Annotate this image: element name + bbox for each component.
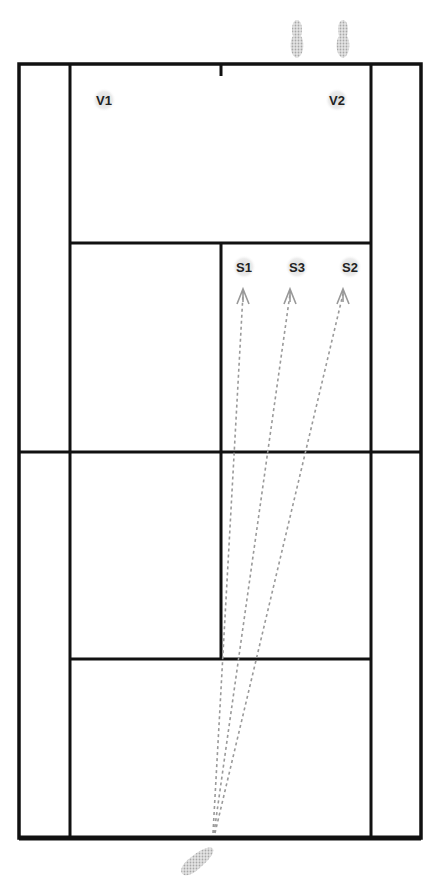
arrow-icon xyxy=(284,289,296,304)
target-markers: S1 S3 S2 xyxy=(232,255,362,279)
receiver-footprints xyxy=(291,20,350,58)
server-footprint xyxy=(181,848,213,876)
player-markers: V1 V2 xyxy=(92,88,349,112)
player-label-v2: V2 xyxy=(329,93,345,108)
target-label-s2: S2 xyxy=(342,260,358,275)
target-label-s1: S1 xyxy=(236,260,252,275)
arrow-icon xyxy=(237,289,249,304)
arrowheads xyxy=(237,289,349,304)
target-label-s3: S3 xyxy=(289,260,305,275)
serve-paths xyxy=(213,294,343,833)
player-label-v1: V1 xyxy=(96,93,112,108)
court-lines xyxy=(19,64,421,838)
arrow-icon xyxy=(337,289,349,304)
tennis-court-diagram: V1 V2 S1 S3 S2 xyxy=(0,0,443,880)
serve-path-s1 xyxy=(213,294,243,833)
